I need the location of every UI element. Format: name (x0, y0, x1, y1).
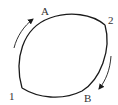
cycle-diagram: A 2 1 B (0, 0, 118, 105)
path-b-curve (22, 25, 107, 97)
path-a-curve (19, 14, 105, 88)
label-point-2: 2 (108, 14, 114, 26)
label-b: B (84, 92, 91, 104)
arrow-path-b-icon (99, 56, 111, 89)
label-a: A (41, 5, 49, 17)
label-point-1: 1 (9, 90, 15, 102)
